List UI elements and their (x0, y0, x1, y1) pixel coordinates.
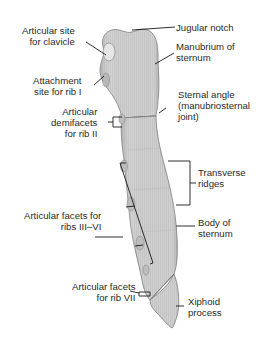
facet-rib5 (136, 236, 144, 250)
facet-rib6 (143, 265, 149, 275)
label-manubrium: Manubrium of sternum (176, 41, 235, 63)
facet-rib3 (121, 160, 128, 172)
label-facets-rib7: Articular facets for rib VII (72, 281, 135, 303)
demifacet-rib2 (119, 114, 125, 124)
leader-sternal-angle (159, 108, 166, 113)
label-sternal-angle: Sternal angle (manubriosternal joint) (178, 89, 250, 122)
leader-jugular (132, 27, 175, 30)
label-attachment-rib1: Attachment site for rib I (33, 75, 82, 97)
sternum-diagram: Articular site for clavicle Attachment s… (0, 0, 260, 339)
label-transverse-ridges: Transverse ridges (198, 167, 246, 189)
label-facets-rib3-6: Articular facets for ribs III–VI (24, 210, 101, 232)
clavicular-notch (103, 43, 115, 61)
label-xiphoid-process: Xiphoid process (188, 296, 222, 318)
label-body-of-sternum: Body of sternum (198, 217, 233, 239)
label-jugular-notch: Jugular notch (176, 22, 234, 33)
label-articular-site-clavicle: Articular site for clavicle (22, 25, 75, 47)
rib1-attachment (103, 73, 110, 87)
label-demifacets-rib2: Articular demifacets for rib II (51, 106, 97, 139)
